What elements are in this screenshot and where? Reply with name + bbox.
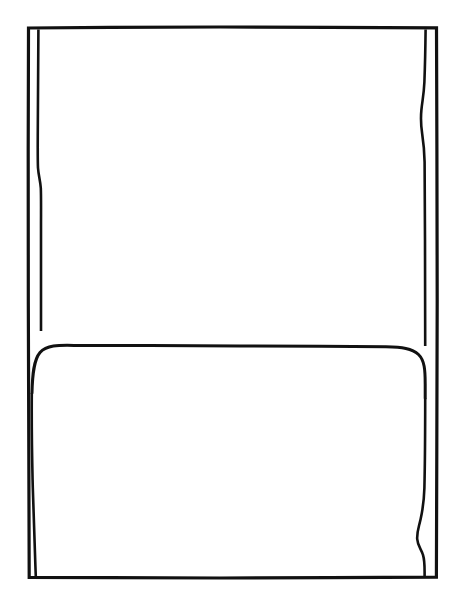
line-drawing-svg — [0, 0, 457, 603]
lower-panel-face — [40, 348, 424, 576]
upper-panel-face — [40, 30, 424, 344]
figure-canvas — [0, 0, 457, 603]
